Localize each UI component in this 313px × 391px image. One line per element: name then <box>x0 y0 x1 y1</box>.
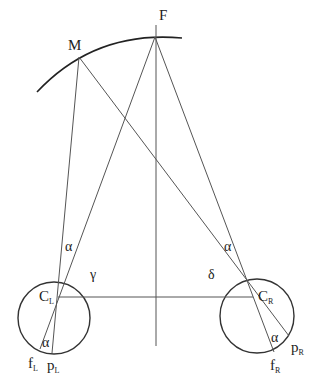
label-F: F <box>159 8 167 23</box>
label-M: M <box>68 38 81 53</box>
geometry-svg <box>0 0 313 391</box>
label-fR: fR <box>270 358 280 375</box>
left-eye-circle <box>18 282 90 354</box>
ray-M-to-pL <box>52 57 79 353</box>
alpha-lower-right: α <box>271 331 278 345</box>
gamma-label: γ <box>90 268 96 282</box>
ray-F-to-fL <box>40 37 155 349</box>
label-pR: pR <box>291 340 304 357</box>
label-CL: CL <box>39 289 54 306</box>
alpha-upper-left: α <box>65 240 72 254</box>
delta-label: δ <box>208 268 215 282</box>
label-CR: CR <box>258 289 273 306</box>
diagram-canvas: F M CL CR fL pL fR pR α α α α γ δ <box>0 0 313 391</box>
right-eye-circle <box>220 279 294 353</box>
horopter-arc <box>37 37 182 92</box>
label-fL: fL <box>28 356 38 373</box>
ray-F-to-fR <box>155 37 274 352</box>
alpha-lower-left: α <box>42 336 49 350</box>
label-pL: pL <box>47 358 59 375</box>
alpha-upper-right: α <box>224 240 231 254</box>
